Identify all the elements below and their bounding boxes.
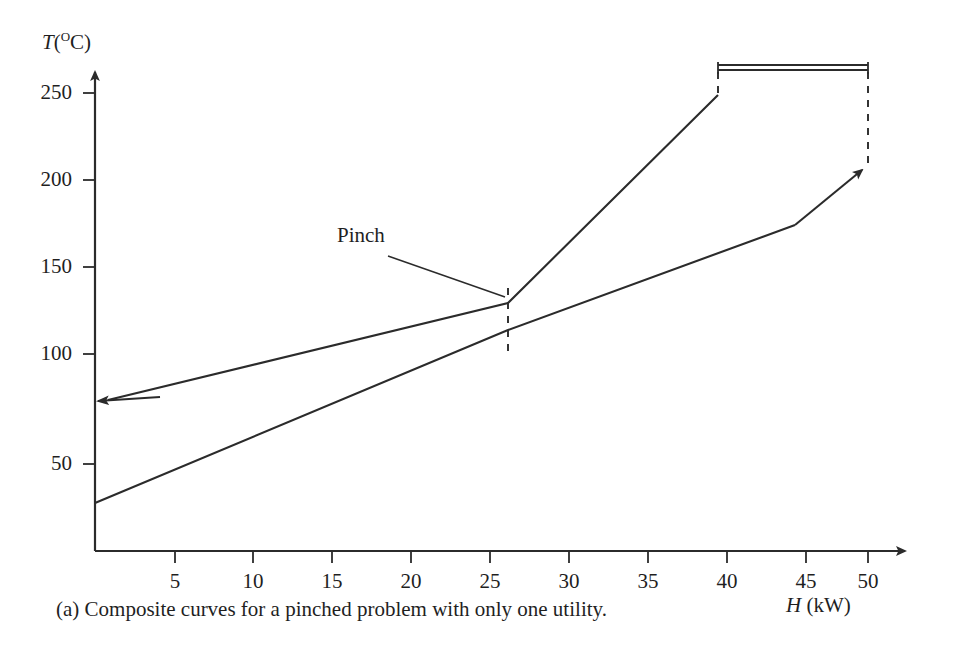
- x-axis-ticks: [175, 551, 868, 563]
- y-tick-label-200: 200: [12, 169, 72, 190]
- x-tick-label-35: 35: [626, 571, 670, 592]
- x-axis-title: H (kW): [786, 595, 851, 616]
- y-tick-label-50: 50: [12, 453, 72, 474]
- y-axis: [83, 72, 95, 551]
- x-tick-label-30: 30: [547, 571, 591, 592]
- x-tick-label-25: 25: [468, 571, 512, 592]
- y-tick-label-150: 150: [12, 256, 72, 277]
- pinch-annotation-label: Pinch: [337, 225, 385, 246]
- x-tick-label-5: 5: [153, 571, 197, 592]
- y-axis-ticks: [83, 93, 95, 464]
- x-tick-label-40: 40: [705, 571, 749, 592]
- y-axis-unit-close: C): [70, 30, 91, 54]
- hot-composite-curve: [98, 95, 718, 401]
- x-tick-label-45: 45: [784, 571, 828, 592]
- y-axis-title: T(OC): [42, 30, 91, 53]
- utility-dashed-lines: [718, 72, 868, 168]
- degree-icon: O: [61, 29, 70, 44]
- x-tick-label-50: 50: [846, 571, 890, 592]
- composite-curves-figure: T(OC) H (kW) 250 200 150 100 50 5 10 15 …: [0, 0, 975, 653]
- figure-caption: (a) Composite curves for a pinched probl…: [56, 597, 607, 622]
- cold-composite-curve: [95, 170, 862, 503]
- y-axis-symbol: T: [42, 30, 54, 54]
- plot-canvas: [0, 0, 975, 653]
- utility-span-bracket: [718, 62, 868, 74]
- x-tick-label-15: 15: [310, 571, 354, 592]
- x-axis-symbol: H: [786, 593, 801, 617]
- pinch-leader-line: [388, 256, 505, 297]
- y-tick-label-250: 250: [12, 82, 72, 103]
- x-tick-label-20: 20: [389, 571, 433, 592]
- x-tick-label-10: 10: [231, 571, 275, 592]
- y-tick-label-100: 100: [12, 343, 72, 364]
- x-axis: [95, 551, 905, 563]
- y-axis-unit-open: (: [54, 30, 61, 54]
- x-axis-unit: (kW): [806, 593, 850, 617]
